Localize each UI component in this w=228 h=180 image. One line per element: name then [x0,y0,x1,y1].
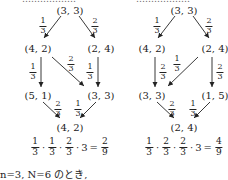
node-mid-right: (2, 4) [88,43,115,54]
edge-prob-midright-lowleft: 13 [173,55,180,73]
node-top: (3, 3) [171,5,198,16]
caption-text: n=3, N=6 のとき, [0,166,87,180]
node-mid-right: (2, 4) [202,43,228,54]
edge-prob-midright-lowright: 13 [86,63,93,81]
node-bottom: (2, 4) [171,122,198,133]
edge-prob-top-midright: 23 [91,17,98,35]
edge-prob-top-midright: 23 [205,17,212,35]
result-fraction: 29 [101,137,109,157]
cut-off-header-left: ‥‥‥‥‥‥‥‥‥ [22,0,76,4]
edge-prob-lowright-bottom: 13 [189,100,196,118]
edge-prob-lowright-bottom: 13 [74,100,81,118]
node-mid-left: (4, 2) [25,43,52,54]
edge-prob-top-midleft: 13 [39,17,46,35]
node-top: (3, 3) [57,5,84,16]
node-low-left: (3, 3) [139,90,166,101]
node-low-right: (3, 3) [88,90,115,101]
node-mid-left: (4, 2) [139,43,166,54]
edge-prob-midleft-lowleft: 13 [29,63,36,81]
probability-equation: 13 · 23 · 23 · 3 = 49 [144,137,223,157]
result-fraction: 49 [215,137,223,157]
node-low-right: (1, 5) [202,90,228,101]
edge-prob-lowleft-bottom: 23 [54,100,61,118]
edge-prob-midleft-lowleft: 23 [159,63,166,81]
edge-prob-top-midleft: 13 [153,17,160,35]
arrow-right-top-to-midleft [158,16,175,38]
edge-prob-midright-lowright: 23 [216,63,223,81]
node-low-left: (5, 1) [25,90,52,101]
node-bottom: (4, 2) [57,122,84,133]
edge-prob-lowleft-bottom: 23 [168,100,175,118]
probability-equation: 13 · 13 · 23 · 3 = 29 [30,137,109,157]
arrow-left-lowright-to-bottom [80,102,96,118]
arrow-left-top-to-midleft [44,16,61,38]
edge-prob-midleft-lowright: 23 [67,55,74,73]
cut-off-header-right: ‥‥‥‥‥‥‥‥‥ [136,0,190,4]
